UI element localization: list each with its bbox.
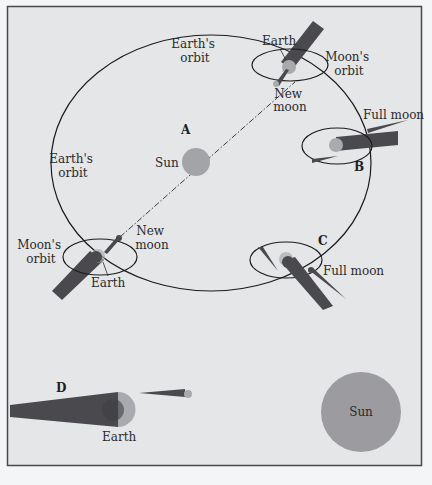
marker-a: A (180, 123, 191, 137)
earth-label-d: Earth (102, 430, 136, 444)
full-moon-label-b: Full moon (363, 108, 424, 122)
earth-d-dark-half (102, 399, 124, 421)
earth-left-dark (90, 251, 102, 263)
earth-c-dark (282, 256, 294, 268)
sun-center-label: Sun (155, 156, 179, 170)
marker-b: B (354, 160, 364, 174)
full-moon-label-c: Full moon (323, 264, 384, 278)
marker-c: C (318, 234, 328, 248)
full-moon-c (308, 267, 314, 273)
earth-label-left: Earth (91, 276, 125, 290)
new-moon-left (116, 235, 122, 241)
marker-d: D (56, 381, 66, 395)
earth-b (329, 138, 343, 152)
sun-large-label: Sun (349, 405, 373, 419)
new-moon-label-top: New moon (273, 87, 307, 114)
new-moon-label-left: New moon (135, 224, 169, 252)
eclipse-geometry-diagram: Sun A Earth's orbit Earth's orbit Earth … (0, 0, 432, 485)
earth-label-top: Earth (262, 34, 296, 48)
sun-center (182, 148, 210, 176)
moon-d (184, 390, 192, 398)
